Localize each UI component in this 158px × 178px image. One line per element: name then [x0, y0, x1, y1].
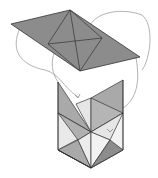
- unfolded-net: [11, 10, 140, 71]
- folding-diagram: [0, 0, 158, 178]
- folded-box: [58, 80, 123, 168]
- diagram-canvas: [0, 0, 158, 178]
- net-face: [11, 10, 140, 71]
